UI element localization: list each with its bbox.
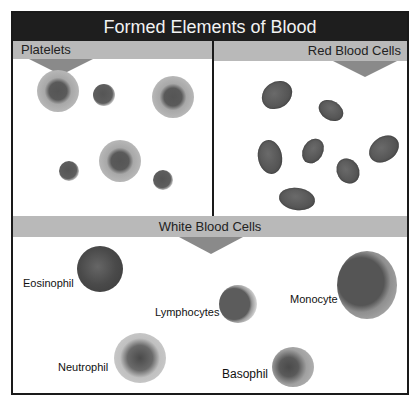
platelets-header: Platelets [13, 41, 212, 59]
neutrophil-label: Neutrophil [58, 361, 108, 373]
platelet-activated-icon [37, 70, 79, 112]
white-blood-cells-header: White Blood Cells [13, 216, 407, 237]
red-blood-cell-icon [256, 75, 297, 115]
eosinophil-label: Eosinophil [23, 277, 74, 289]
monocyte-label: Monocyte [290, 293, 338, 305]
red-blood-cell-icon [255, 138, 285, 176]
lymphocytes-label: Lymphocytes [155, 306, 219, 318]
red-blood-cell-icon [332, 154, 364, 188]
basophil-label: Basophil [222, 367, 268, 381]
red-blood-cell-icon [364, 130, 404, 168]
red-blood-cell-icon [315, 96, 347, 125]
neutrophil-icon [114, 333, 166, 383]
platelet-icon [93, 84, 115, 106]
red-blood-cell-icon [278, 186, 317, 213]
wbc-arrow-icon [179, 237, 243, 254]
panel-divider [212, 41, 214, 216]
platelet-icon [59, 161, 79, 181]
lymphocyte-icon [219, 285, 257, 323]
rbc-arrow-icon [333, 61, 397, 77]
eosinophil-icon [77, 246, 123, 292]
monocyte-icon [337, 251, 397, 319]
platelet-activated-icon [99, 140, 141, 182]
diagram-frame: Formed Elements of Blood Platelets Red B… [11, 11, 409, 395]
diagram-title: Formed Elements of Blood [13, 13, 407, 41]
platelet-activated-icon [152, 76, 194, 118]
red-blood-cell-icon [298, 135, 328, 168]
red-blood-cells-header: Red Blood Cells [214, 41, 407, 61]
platelet-icon [153, 170, 173, 190]
basophil-icon [272, 347, 314, 387]
